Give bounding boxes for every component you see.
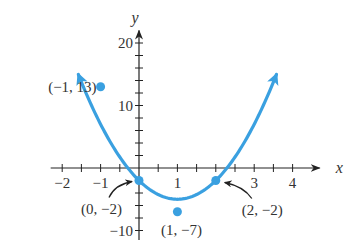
annotations: (−1, 13)(0, −2)(1, −7)(2, −2) bbox=[48, 79, 283, 239]
curve-right-branch bbox=[177, 74, 276, 199]
point-label: (0, −2) bbox=[81, 201, 122, 218]
chart: −2−11342010−10xy (−1, 13)(0, −2)(1, −7)(… bbox=[0, 0, 353, 249]
y-tick-label: −10 bbox=[110, 223, 133, 239]
x-tick-label: −1 bbox=[93, 175, 109, 191]
x-axis-label: x bbox=[335, 159, 343, 176]
x-tick-label: 1 bbox=[174, 175, 182, 191]
point-label: (1, −7) bbox=[161, 222, 202, 239]
data-point bbox=[173, 207, 182, 216]
y-tick-label: 10 bbox=[118, 98, 133, 114]
point-label: (−1, 13) bbox=[48, 79, 96, 96]
y-axis-label: y bbox=[129, 9, 139, 27]
x-tick-label: 3 bbox=[250, 175, 258, 191]
curve-group bbox=[78, 74, 276, 216]
data-point bbox=[211, 176, 220, 185]
data-point bbox=[135, 176, 144, 185]
pointer-arrow bbox=[225, 183, 252, 199]
point-label: (2, −2) bbox=[242, 202, 283, 219]
data-point bbox=[96, 82, 105, 91]
x-tick-label: −2 bbox=[54, 175, 70, 191]
parabola-plot: −2−11342010−10xy (−1, 13)(0, −2)(1, −7)(… bbox=[0, 0, 353, 249]
pointer-arrow bbox=[109, 182, 132, 198]
x-tick-label: 4 bbox=[289, 175, 297, 191]
y-tick-label: 20 bbox=[118, 35, 133, 51]
